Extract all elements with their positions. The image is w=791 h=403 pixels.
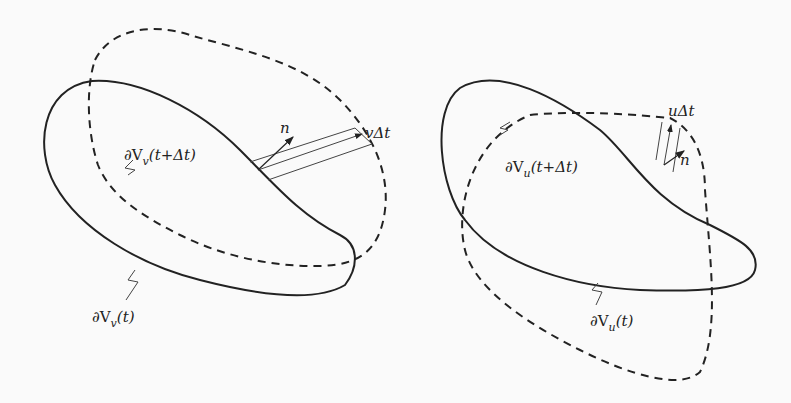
- left-normal-label: n: [280, 119, 290, 137]
- left-normal-arrow: [258, 137, 293, 170]
- right-boundary-tdt-label: ∂Vu(t+Δt): [505, 158, 578, 180]
- right-displacement-label: uΔt: [668, 102, 695, 120]
- left-boundary-tdt-label: ∂Vv(t+Δt): [124, 146, 196, 168]
- left-boundary-t-solid: [44, 81, 355, 295]
- right-boundary-tdt-dashed: [462, 113, 712, 380]
- left-displacement-label: vΔt: [365, 124, 391, 142]
- right-boundary-t-solid: [441, 81, 755, 291]
- diagram-canvas: ∂Vv(t+Δt) ∂Vv(t) n vΔt ∂Vu(t+Δt) ∂Vu(t) …: [0, 0, 791, 403]
- right-normal-label: n: [680, 151, 690, 169]
- right-boundary-t-label: ∂Vu(t): [590, 312, 634, 334]
- left-boundary-t-label: ∂Vv(t): [92, 308, 135, 330]
- right-panel: ∂Vu(t+Δt) ∂Vu(t) n uΔt: [441, 81, 755, 380]
- left-panel: ∂Vv(t+Δt) ∂Vv(t) n vΔt: [44, 29, 391, 330]
